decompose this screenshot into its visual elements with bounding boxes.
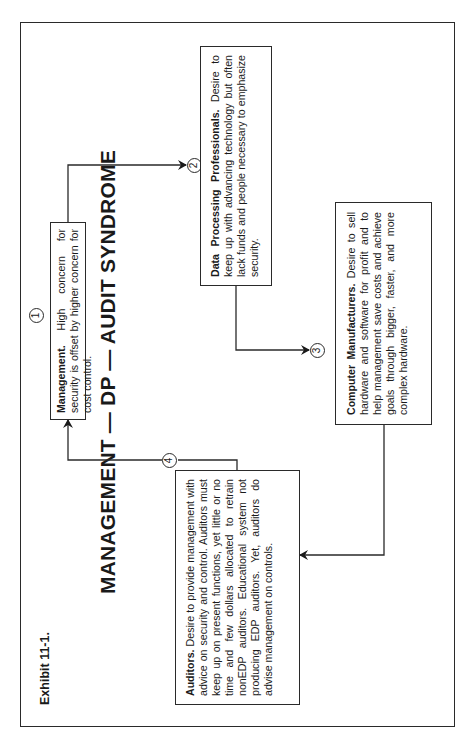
step-number-1: 1 xyxy=(29,308,44,323)
node-auditors: Auditors. Desire to provide management w… xyxy=(175,470,300,705)
node-data-processing-professionals: Data Processing Professionals. Desire to… xyxy=(200,46,272,286)
arrow-aud-to-mgmt-2 xyxy=(68,420,162,460)
node-heading: Auditors. xyxy=(184,650,196,697)
arrow-dp-to-cm xyxy=(236,286,309,350)
node-heading: Data Processing Professionals. xyxy=(209,109,221,277)
step-number-3: 3 xyxy=(310,343,325,358)
node-heading: Computer Manufacturers. xyxy=(345,284,357,415)
node-computer-manufacturers: Computer Manufacturers. Desire to sell h… xyxy=(335,202,432,425)
arrow-aud-to-mgmt xyxy=(178,460,237,470)
arrow-cm-to-aud xyxy=(300,425,384,555)
step-number-4: 4 xyxy=(162,453,177,468)
node-management: Management. High concern for security is… xyxy=(50,222,86,420)
arrow-mgmt-to-dp xyxy=(68,165,186,222)
diagram-canvas: Exhibit 11-1. MANAGEMENT — DP — AUDIT SY… xyxy=(0,0,473,736)
node-heading: Management. xyxy=(55,345,67,413)
node-text: Desire to provide management with advice… xyxy=(184,479,274,696)
